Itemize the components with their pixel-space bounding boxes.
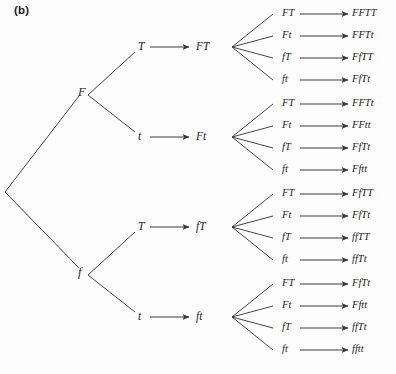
gamete-label-3-1: Ft: [282, 300, 291, 311]
zygote-label-3-3: fftt: [352, 344, 364, 355]
fan-FT-to-ft-3: [232, 47, 273, 80]
zygote-label-2-2: ffTT: [352, 232, 370, 243]
zygote-label-0-2: FfTT: [352, 52, 373, 63]
zygote-label-3-1: Fftt: [352, 300, 367, 311]
zygote-label-3-0: FfTt: [352, 278, 370, 289]
branch-root-to-f: [5, 192, 79, 268]
gamete-label-2-0: FT: [282, 188, 294, 199]
fan-fT-to-FT-0: [232, 194, 273, 227]
zygote-label-2-0: FfTT: [352, 188, 373, 199]
arrow-lines: [150, 14, 348, 350]
fan-FT-to-FT-0: [232, 14, 273, 47]
fan-fT-to-ft-3: [232, 227, 273, 260]
gamete-label-2-2: fT: [282, 232, 291, 243]
zygote-label-1-3: Fftt: [352, 164, 367, 175]
gamete-label-2-1: Ft: [282, 210, 291, 221]
zygote-label-2-3: ffTt: [352, 254, 367, 265]
zygote-label-1-2: FfTt: [352, 142, 370, 153]
node-gamete-ft-3: ft: [196, 311, 202, 323]
gamete-label-3-0: FT: [282, 278, 294, 289]
branch-f-to-t-3: [88, 275, 135, 312]
node-allele-t-1: t: [138, 131, 141, 143]
gamete-label-0-2: fT: [282, 52, 291, 63]
node-gamete-fT-2: fT: [196, 221, 206, 233]
fan-ft-to-ft-3: [232, 317, 273, 350]
node-allele-f: f: [78, 266, 81, 279]
zygote-label-0-1: FFTt: [352, 30, 374, 41]
fan-Ft-to-ft-3: [232, 137, 273, 170]
branch-root-to-F: [5, 96, 79, 192]
gamete-label-1-0: FT: [282, 98, 294, 109]
gamete-label-0-1: Ft: [282, 30, 291, 41]
genetics-tree-figure: (b) FfTtTtFTFtfTftFTFFTTFtFFTtfTFfTTftFf…: [0, 0, 396, 374]
zygote-label-1-1: FFtt: [352, 120, 371, 131]
branch-F-to-T-0: [88, 52, 135, 95]
branch-lines: [5, 14, 273, 350]
node-gamete-FT-0: FT: [196, 41, 209, 53]
gamete-label-3-3: ft: [282, 344, 288, 355]
zygote-label-3-2: ffTt: [352, 322, 367, 333]
node-gamete-Ft-1: Ft: [196, 131, 206, 143]
branch-f-to-T-2: [88, 232, 135, 275]
zygote-label-0-0: FFTT: [352, 8, 377, 19]
gamete-label-3-2: fT: [282, 322, 291, 333]
gamete-label-2-3: ft: [282, 254, 288, 265]
gamete-label-1-1: Ft: [282, 120, 291, 131]
node-allele-T-0: T: [138, 41, 144, 53]
branch-F-to-t-1: [88, 95, 135, 132]
gamete-label-1-3: ft: [282, 164, 288, 175]
gamete-label-1-2: fT: [282, 142, 291, 153]
node-allele-t-3: t: [138, 311, 141, 323]
gamete-label-0-3: ft: [282, 74, 288, 85]
zygote-label-1-0: FFTt: [352, 98, 374, 109]
gamete-label-0-0: FT: [282, 8, 294, 19]
zygote-label-0-3: FfTt: [352, 74, 370, 85]
node-allele-T-2: T: [138, 221, 144, 233]
fan-Ft-to-FT-0: [232, 104, 273, 137]
zygote-label-2-1: FfTt: [352, 210, 370, 221]
node-allele-F: F: [78, 86, 86, 99]
fan-ft-to-FT-0: [232, 284, 273, 317]
